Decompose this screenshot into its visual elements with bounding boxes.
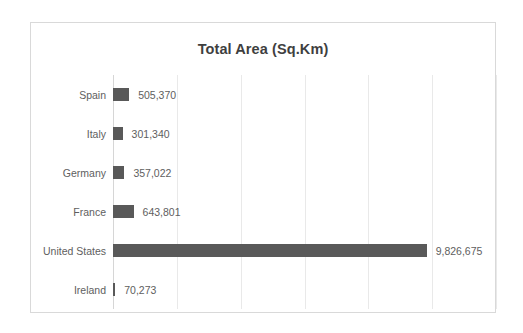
bar[interactable]: [113, 127, 123, 140]
bar-row[interactable]: Italy301,340: [113, 114, 496, 153]
bar[interactable]: [113, 283, 115, 296]
category-label: Spain: [79, 89, 106, 101]
chart-container: Total Area (Sq.Km) Spain505,370Italy301,…: [30, 22, 496, 313]
category-label: France: [73, 206, 106, 218]
bar-value-label: 301,340: [132, 128, 170, 140]
bar-value-label: 357,022: [133, 167, 171, 179]
bar[interactable]: [113, 166, 124, 179]
bar-row[interactable]: Spain505,370: [113, 75, 496, 114]
plot-area: Spain505,370Italy301,340Germany357,022Fr…: [113, 75, 496, 309]
bar[interactable]: [113, 244, 427, 257]
bar-value-label: 505,370: [138, 89, 176, 101]
category-label: Ireland: [74, 284, 106, 296]
bar-row[interactable]: United States9,826,675: [113, 231, 496, 270]
bar-value-label: 643,801: [143, 206, 181, 218]
bar[interactable]: [113, 88, 129, 101]
bar-row[interactable]: Germany357,022: [113, 153, 496, 192]
bar-row[interactable]: Ireland70,273: [113, 270, 496, 309]
bar[interactable]: [113, 205, 134, 218]
gridline: [496, 75, 497, 309]
category-label: Italy: [87, 128, 106, 140]
category-label: United States: [43, 245, 106, 257]
bar-value-label: 70,273: [124, 284, 156, 296]
category-label: Germany: [63, 167, 106, 179]
bar-rows: Spain505,370Italy301,340Germany357,022Fr…: [113, 75, 496, 309]
chart-title: Total Area (Sq.Km): [31, 41, 495, 57]
bar-value-label: 9,826,675: [436, 245, 483, 257]
bar-row[interactable]: France643,801: [113, 192, 496, 231]
